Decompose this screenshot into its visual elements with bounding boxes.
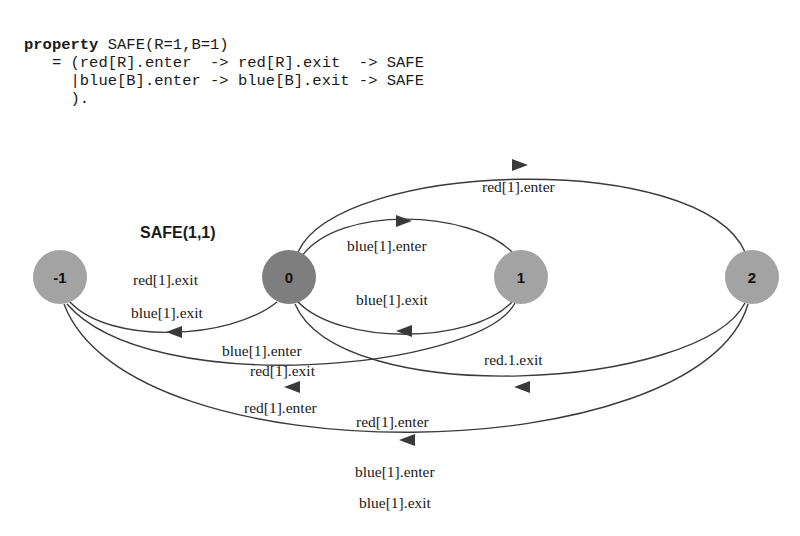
state-label: 1 <box>517 269 525 286</box>
edge-label-0-m1-b: blue[1].exit <box>131 304 204 321</box>
arrow-2-to-minus1 <box>399 434 415 446</box>
diagram-title: SAFE(1,1) <box>140 224 216 241</box>
state-label: 0 <box>285 269 293 286</box>
state-node-1: 1 <box>494 250 548 304</box>
edge-label-2-m1-b: blue[1].enter <box>355 463 435 480</box>
edge-label-0-2: red[1].enter <box>482 178 556 195</box>
edge-label-0-m1-a: red[1].exit <box>133 271 199 288</box>
lts-diagram: SAFE(1,1) red[1].enter blue[1].enter blu… <box>0 0 800 536</box>
edge-label-1-m1-c: red[1].enter <box>244 399 318 416</box>
edge-label-2-0: red.1.exit <box>484 351 543 368</box>
state-node-minus1: -1 <box>33 250 87 304</box>
edge-label-0-1: blue[1].enter <box>347 237 427 254</box>
state-label: -1 <box>53 269 66 286</box>
arrow-2-to-0 <box>514 381 530 393</box>
edge-label-1-m1-b: red[1].exit <box>250 362 316 379</box>
arrow-1-to-0 <box>396 325 412 337</box>
state-node-2: 2 <box>725 250 779 304</box>
arrow-0-to-minus1 <box>166 326 182 338</box>
edge-label-1-m1-a: blue[1].enter <box>222 342 302 359</box>
edge-label-1-0: blue[1].exit <box>356 291 429 308</box>
edge-label-2-m1-a: red[1].enter <box>356 413 430 430</box>
edge-label-2-m1-c: blue[1].exit <box>359 494 432 511</box>
arrow-0-to-2 <box>512 159 528 171</box>
state-label: 2 <box>748 269 756 286</box>
arrow-0-to-1 <box>396 215 412 227</box>
state-node-0: 0 <box>262 250 316 304</box>
arrow-1-to-minus1 <box>284 381 300 393</box>
